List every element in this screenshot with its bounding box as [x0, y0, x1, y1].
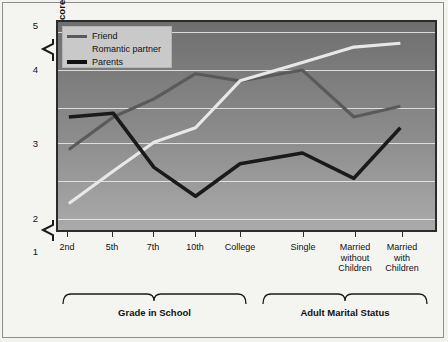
legend-label: Romantic partner — [92, 43, 161, 55]
y-axis-break-icon-lower — [40, 218, 54, 242]
y-tick-label-2: 2 — [24, 213, 38, 224]
x-tick-mark — [240, 232, 241, 237]
y-tick-label-1: 1 — [24, 246, 38, 257]
legend-label: Parents — [92, 56, 123, 68]
x-tick-label-single: Single — [273, 242, 333, 253]
y-tick-label-4: 4 — [24, 64, 38, 75]
legend-item-parents: Parents — [67, 56, 167, 68]
x-tick-label-married-with-children: MarriedwithChildren — [372, 242, 432, 274]
x-tick-mark — [402, 232, 403, 237]
bracket-adult-marital-status — [262, 292, 428, 305]
legend-swatch-line-icon — [67, 60, 87, 64]
y-axis-break-icon — [40, 38, 54, 62]
series-line-parents — [69, 113, 400, 196]
legend-label: Friend — [92, 30, 118, 42]
bracket-grade-in-school — [62, 292, 247, 305]
x-tick-mark — [355, 232, 356, 237]
y-tick-label-3: 3 — [24, 138, 38, 149]
group-label-marital: Adult Marital Status — [262, 307, 428, 318]
legend-swatch-line-icon — [67, 35, 87, 38]
legend-swatch-line-icon — [67, 48, 87, 51]
x-tick-label-college: College — [210, 242, 270, 253]
legend-item-friend: Friend — [67, 30, 167, 42]
chart-screenshot: Mean Self-Disclosure Score 5 4 3 2 1 Fri… — [0, 0, 448, 342]
group-label-grade: Grade in School — [62, 307, 247, 318]
legend-item-romantic-partner: Romantic partner — [67, 43, 167, 55]
x-tick-mark — [112, 232, 113, 237]
x-tick-mark — [195, 232, 196, 237]
series-line-friend — [69, 70, 400, 149]
x-tick-mark — [153, 232, 154, 237]
x-tick-mark — [67, 232, 68, 237]
x-tick-mark — [303, 232, 304, 237]
legend: Friend Romantic partner Parents — [62, 26, 172, 68]
y-tick-label-5: 5 — [24, 20, 38, 31]
